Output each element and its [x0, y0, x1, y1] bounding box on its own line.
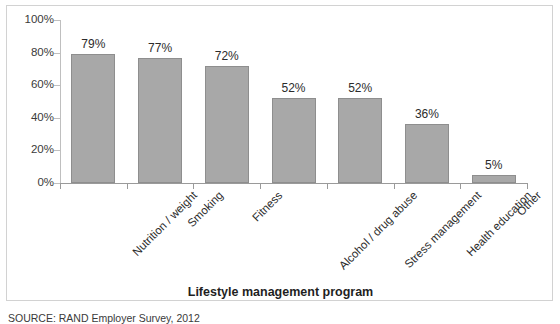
y-axis-tick	[54, 53, 60, 54]
x-axis-title: Lifestyle management program	[7, 285, 554, 299]
y-axis-tick-label: 40%	[10, 112, 54, 123]
bar-value-label: 72%	[193, 50, 261, 62]
bar[interactable]	[472, 175, 516, 183]
x-axis-tick	[527, 184, 528, 189]
plot-area: 79%77%72%52%52%36%5%	[60, 20, 527, 183]
y-axis-tick-label: 100%	[10, 14, 54, 25]
x-axis-category-label: Other	[514, 189, 543, 218]
x-axis-tick	[327, 184, 328, 189]
bar[interactable]	[405, 124, 449, 183]
y-axis-tick-label: 0%	[10, 177, 54, 188]
bar[interactable]	[71, 54, 115, 183]
bar[interactable]	[205, 66, 249, 183]
source-note: SOURCE: RAND Employer Survey, 2012	[8, 313, 200, 324]
x-axis-line	[60, 183, 528, 184]
y-axis-labels: 100%80%60%40%20%0%	[7, 6, 54, 300]
x-axis-category-label: Fitness	[250, 189, 285, 224]
bar-value-label: 36%	[393, 108, 461, 120]
bar-group[interactable]: 77%	[138, 20, 182, 183]
y-axis-tick-label: 60%	[10, 79, 54, 90]
y-axis-tick-label: 80%	[10, 47, 54, 58]
x-axis-tick	[193, 184, 194, 189]
x-axis-tick	[260, 184, 261, 189]
bar-value-label: 52%	[260, 82, 328, 94]
bar-value-label: 77%	[126, 42, 194, 54]
bar-group[interactable]: 36%	[405, 20, 449, 183]
bar-group[interactable]: 52%	[338, 20, 382, 183]
bar-value-label: 5%	[460, 159, 528, 171]
x-axis-tick	[60, 184, 61, 189]
bar-value-label: 79%	[59, 38, 127, 50]
chart-frame: 100%80%60%40%20%0% 79%77%72%52%52%36%5% …	[6, 5, 553, 301]
bar-group[interactable]: 5%	[472, 20, 516, 183]
bar-group[interactable]: 72%	[205, 20, 249, 183]
x-axis-tick	[460, 184, 461, 189]
bar-group[interactable]: 52%	[272, 20, 316, 183]
bar[interactable]	[138, 58, 182, 184]
y-axis-tick	[54, 118, 60, 119]
bar[interactable]	[272, 98, 316, 183]
x-axis-tick	[394, 184, 395, 189]
bar-value-label: 52%	[326, 82, 394, 94]
y-axis-tick	[54, 150, 60, 151]
bar[interactable]	[338, 98, 382, 183]
y-axis-tick	[54, 20, 60, 21]
x-axis-tick	[127, 184, 128, 189]
y-axis-tick	[54, 85, 60, 86]
y-axis-tick-label: 20%	[10, 144, 54, 155]
bar-group[interactable]: 79%	[71, 20, 115, 183]
x-axis-category-labels: Nutrition / weightSmokingFitnessAlcohol …	[60, 189, 527, 289]
